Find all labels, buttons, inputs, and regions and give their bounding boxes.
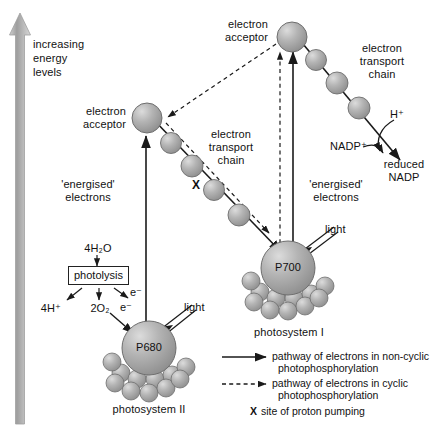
electron-acceptor-top-label-line2: acceptor — [198, 31, 268, 44]
legend-item-2-symbol: X — [250, 405, 257, 418]
energised-left-label-line1: 'energised' — [48, 178, 128, 191]
etc-right-label-line1: electron — [347, 42, 417, 55]
energised-right-label-line2: electrons — [296, 191, 376, 204]
etc-left-label-line3: chain — [196, 154, 266, 167]
energised-left-label-line2: electrons — [48, 191, 128, 204]
energy-axis-arrow — [10, 13, 31, 424]
proton-product-label: 4H⁺ — [30, 302, 72, 315]
cyclic-arrow-to-left-acceptor — [168, 44, 276, 117]
electron-product-label-b: e⁻ — [120, 301, 132, 314]
etc-right-label-line2: transport — [347, 55, 417, 68]
electron-acceptor-left-label-line2: acceptor — [56, 118, 126, 131]
legend-item-0-line1: pathway of electrons in non-cyclic — [272, 350, 429, 363]
proton-label: H⁺ — [390, 108, 404, 121]
diagram-canvas: increasing energy levels electron accept… — [0, 0, 447, 440]
photosystem-1-cluster — [242, 241, 334, 320]
electron-acceptor-top-label-line1: electron — [198, 18, 268, 31]
nadp-plus-label: NADP⁺ — [330, 140, 367, 153]
legend-item-1-line1: pathway of electrons in cyclic — [272, 377, 408, 390]
reduced-nadp-label-line1: reduced — [372, 158, 436, 171]
photolysis-box: photolysis — [68, 266, 129, 285]
etc-left-label-line2: transport — [196, 141, 266, 154]
photolysis-to-electrons-arrow — [114, 288, 128, 298]
light-label-ps1: light — [325, 223, 346, 236]
energised-right-label-line1: 'energised' — [296, 178, 376, 191]
axis-label-levels: levels — [33, 66, 62, 79]
etc-left-label-line1: electron — [196, 128, 266, 141]
p680-label: P680 — [110, 341, 188, 354]
electron-acceptor-left-label-line1: electron — [56, 105, 126, 118]
photosystem-1-label: photosystem I — [244, 326, 334, 339]
legend-item-1-line2: photophosphorylation — [278, 389, 378, 402]
electron-acceptor-left-sphere — [132, 103, 162, 133]
electron-acceptor-top-sphere — [277, 22, 307, 52]
legend-item-2-line1: site of proton pumping — [261, 405, 365, 418]
x-marker-left: X — [192, 178, 200, 192]
water-input-label: 4H₂O — [72, 242, 124, 255]
photolysis-to-protons-arrow — [67, 288, 82, 300]
electron-product-label-a: e⁻ — [130, 286, 142, 299]
legend-item-0-line2: photophosphorylation — [278, 362, 378, 375]
proton-input-curve — [378, 120, 394, 151]
light-label-ps2: light — [184, 301, 205, 314]
oxygen-product-label: 2O₂ — [80, 302, 120, 315]
axis-label-energy: energy — [33, 52, 67, 65]
axis-label-increasing: increasing — [33, 38, 84, 51]
photosystem-2-cluster — [103, 321, 195, 402]
photosystem-2-label: photosystem II — [101, 403, 197, 416]
etc-right-label-line3: chain — [347, 68, 417, 81]
reduced-nadp-label-line2: NADP — [372, 171, 436, 184]
p700-label: P700 — [249, 261, 327, 274]
